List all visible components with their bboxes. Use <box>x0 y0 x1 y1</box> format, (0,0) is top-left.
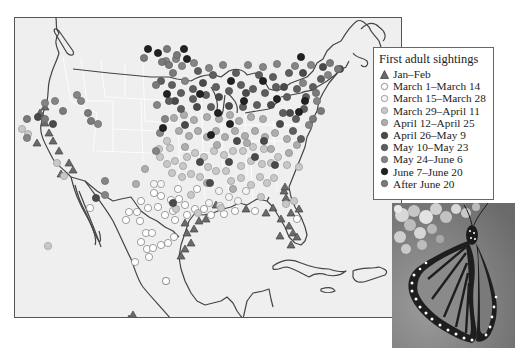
sighting-circle-marker <box>295 108 302 115</box>
sighting-circle-marker <box>23 134 30 141</box>
sighting-circle-marker <box>189 95 196 102</box>
circle-marker-icon <box>379 178 390 189</box>
sighting-circle-marker <box>293 215 300 222</box>
sighting-circle-marker <box>94 120 101 127</box>
sighting-circle-marker <box>171 157 178 164</box>
circle-marker-icon <box>379 93 390 104</box>
sighting-circle-marker <box>196 90 203 97</box>
sighting-circle-marker <box>60 172 67 179</box>
sighting-circle-marker <box>317 107 324 114</box>
sighting-circle-marker <box>225 158 232 165</box>
sighting-circle-marker <box>159 124 166 131</box>
sighting-circle-marker <box>152 147 159 154</box>
sighting-circle-marker <box>34 113 41 120</box>
legend-item: March 1–March 14 <box>379 80 488 92</box>
legend-item-label: March 29–April 11 <box>393 105 480 117</box>
sighting-circle-marker <box>312 89 319 96</box>
sighting-circle-marker <box>148 229 155 236</box>
sighting-circle-marker <box>165 61 172 68</box>
sighting-circle-marker <box>154 49 161 56</box>
sighting-circle-marker <box>170 114 177 121</box>
sighting-circle-marker <box>259 115 266 122</box>
sighting-circle-marker <box>258 160 265 167</box>
sighting-triangle-marker <box>287 209 295 216</box>
sighting-circle-marker <box>194 67 201 74</box>
sighting-circle-marker <box>293 85 300 92</box>
sighting-triangle-marker <box>285 222 293 229</box>
sighting-circle-marker <box>164 239 171 246</box>
sighting-circle-marker <box>227 77 234 84</box>
sighting-triangle-marker <box>281 183 289 190</box>
sighting-circle-marker <box>221 133 228 140</box>
sighting-circle-marker <box>174 185 181 192</box>
sighting-circle-marker <box>165 97 172 104</box>
sighting-circle-marker <box>259 77 266 84</box>
sighting-circle-marker <box>101 177 108 184</box>
sighting-circle-marker <box>276 120 283 127</box>
sighting-circle-marker <box>234 197 241 204</box>
sighting-circle-marker <box>212 167 219 174</box>
sighting-circle-marker <box>256 173 263 180</box>
sighting-circle-marker <box>247 181 254 188</box>
sighting-circle-marker <box>193 185 200 192</box>
sighting-circle-marker <box>297 135 304 142</box>
sighting-circle-marker <box>41 99 48 106</box>
sighting-circle-marker <box>261 89 268 96</box>
sighting-circle-marker <box>23 115 30 122</box>
sighting-triangle-marker <box>49 137 57 144</box>
sighting-circle-marker <box>175 127 182 134</box>
sighting-triangle-marker <box>242 205 250 212</box>
sighting-circle-marker <box>220 151 227 158</box>
sighting-circle-marker <box>217 204 224 211</box>
sighting-circle-marker <box>307 61 314 68</box>
sighting-circle-marker <box>166 144 173 151</box>
legend-item: Jan–Feb <box>379 68 488 80</box>
sighting-circle-marker <box>297 53 304 60</box>
sighting-circle-marker <box>181 77 188 84</box>
sighting-circle-marker <box>313 97 320 104</box>
sighting-circle-marker <box>41 115 48 122</box>
sighting-circle-marker <box>213 141 220 148</box>
sighting-circle-marker <box>181 143 188 150</box>
sighting-circle-marker <box>240 97 247 104</box>
sighting-circle-marker <box>157 241 164 248</box>
sighting-circle-marker <box>231 207 238 214</box>
sighting-triangle-marker <box>129 311 137 318</box>
sighting-circle-marker <box>204 163 211 170</box>
sighting-circle-marker <box>237 174 244 181</box>
sighting-circle-marker <box>274 153 281 160</box>
sighting-circle-marker <box>285 149 292 156</box>
sighting-triangle-marker <box>181 219 189 226</box>
sighting-triangle-marker <box>45 129 53 136</box>
sighting-circle-marker <box>161 211 168 218</box>
sighting-circle-marker <box>251 207 258 214</box>
legend-item-label: June 7–June 20 <box>393 166 463 178</box>
sighting-circle-marker <box>18 125 25 132</box>
sighting-circle-marker <box>181 201 188 208</box>
sighting-circle-marker <box>291 62 298 69</box>
sighting-circle-marker <box>133 208 140 215</box>
legend-item: April 12–April 25 <box>379 117 488 129</box>
sighting-circle-marker <box>225 87 232 94</box>
butterfly-illustration <box>392 203 515 348</box>
sighting-circle-marker <box>207 211 214 218</box>
sighting-circle-marker <box>272 83 279 90</box>
sighting-circle-marker <box>191 149 198 156</box>
sighting-circle-marker <box>219 61 226 68</box>
sighting-circle-marker <box>214 109 221 116</box>
sighting-circle-marker <box>241 132 248 139</box>
sighting-circle-marker <box>157 192 164 199</box>
sighting-circle-marker <box>158 58 165 65</box>
legend-item: April 26–May 9 <box>379 129 488 141</box>
sighting-circle-marker <box>270 174 277 181</box>
legend-item-label: After June 20 <box>393 178 455 190</box>
sighting-circle-marker <box>229 147 236 154</box>
sighting-circle-marker <box>273 95 280 102</box>
sighting-circle-marker <box>225 193 232 200</box>
sighting-circle-marker <box>153 101 160 108</box>
sighting-circle-marker <box>196 158 203 165</box>
sighting-circle-marker <box>163 160 170 167</box>
sighting-triangle-marker <box>276 232 284 239</box>
sighting-circle-marker <box>229 185 236 192</box>
sighting-circle-marker <box>86 204 93 211</box>
